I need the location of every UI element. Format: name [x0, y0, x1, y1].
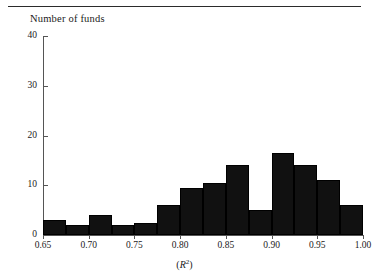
x-tick-0.95: [317, 235, 318, 239]
histogram-bar: [294, 165, 317, 235]
x-tick-0.85: [226, 235, 227, 239]
histogram-bar: [317, 180, 340, 235]
x-axis-label-suffix: ): [189, 259, 192, 270]
x-tick-0.75: [134, 235, 135, 239]
x-tick-label-0.75: 0.75: [112, 240, 156, 250]
histogram-bars: [43, 36, 363, 235]
histogram-bar: [203, 183, 226, 235]
x-tick-label-1.00: 1.00: [341, 240, 376, 250]
x-tick-0.70: [89, 235, 90, 239]
histogram-bar: [66, 225, 89, 235]
x-tick-label-0.80: 0.80: [158, 240, 202, 250]
top-rule-divider: [8, 6, 361, 7]
y-tick-label-0: 0: [0, 229, 37, 239]
x-tick-0.65: [43, 235, 44, 239]
y-tick-label-10: 10: [0, 179, 37, 189]
x-tick-1.00: [363, 235, 364, 239]
histogram-bar: [340, 205, 363, 235]
y-tick-label-20: 20: [0, 130, 37, 140]
x-tick-0.80: [180, 235, 181, 239]
histogram-bar: [43, 220, 66, 235]
y-tick-label-40: 40: [0, 30, 37, 40]
x-axis-line: [43, 235, 363, 236]
y-tick-label-30: 30: [0, 80, 37, 90]
histogram-bar: [226, 165, 249, 235]
x-tick-label-0.70: 0.70: [67, 240, 111, 250]
histogram-bar: [249, 210, 272, 235]
x-tick-label-0.95: 0.95: [295, 240, 339, 250]
x-tick-label-0.90: 0.90: [250, 240, 294, 250]
histogram-bar: [89, 215, 112, 235]
x-tick-0.90: [272, 235, 273, 239]
histogram-bar: [180, 188, 203, 235]
histogram-bar: [272, 153, 295, 235]
x-tick-label-0.85: 0.85: [204, 240, 248, 250]
histogram-bar: [112, 225, 135, 235]
histogram-bar: [157, 205, 180, 235]
chart-title: Number of funds: [30, 13, 105, 24]
x-axis-label: (R2): [0, 258, 369, 270]
x-tick-label-0.65: 0.65: [21, 240, 65, 250]
histogram-bar: [134, 223, 157, 235]
